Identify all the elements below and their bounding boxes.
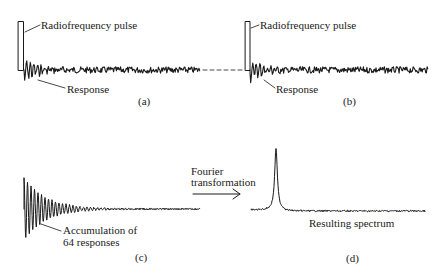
fourier-arrow (193, 189, 240, 199)
spectrum-trace (251, 149, 425, 212)
panel-label-b: (b) (343, 96, 356, 107)
panel-label-a: (a) (138, 96, 150, 107)
accumulation-leader (41, 224, 61, 231)
response-label-b: Response (276, 84, 318, 95)
pulse-leader-b (251, 25, 259, 28)
pulse-label-a: Radiofrequency pulse (41, 20, 137, 31)
rf-pulse-b (246, 22, 251, 71)
rf-pulse-a (19, 22, 24, 71)
fid-signal-b (250, 63, 428, 83)
panel-b-graphics (246, 22, 428, 89)
panel-d-graphics (251, 149, 425, 212)
accumulation-label-line2: 64 responses (63, 237, 120, 248)
pulse-leader-a (25, 25, 40, 32)
pulse-label-b: Radiofrequency pulse (260, 20, 356, 31)
response-leader-a (38, 80, 65, 88)
response-leader-b (264, 80, 275, 88)
panel-label-d: (d) (346, 253, 359, 264)
panel-label-c: (c) (135, 252, 147, 263)
spectrum-label: Resulting spectrum (309, 218, 394, 229)
response-label-a: Response (67, 84, 109, 95)
fourier-label-line2: transformation (191, 177, 256, 188)
fid-signal-a (24, 61, 200, 80)
accumulation-label-line1: Accumulation of (63, 225, 137, 236)
panel-a-graphics (19, 22, 246, 89)
